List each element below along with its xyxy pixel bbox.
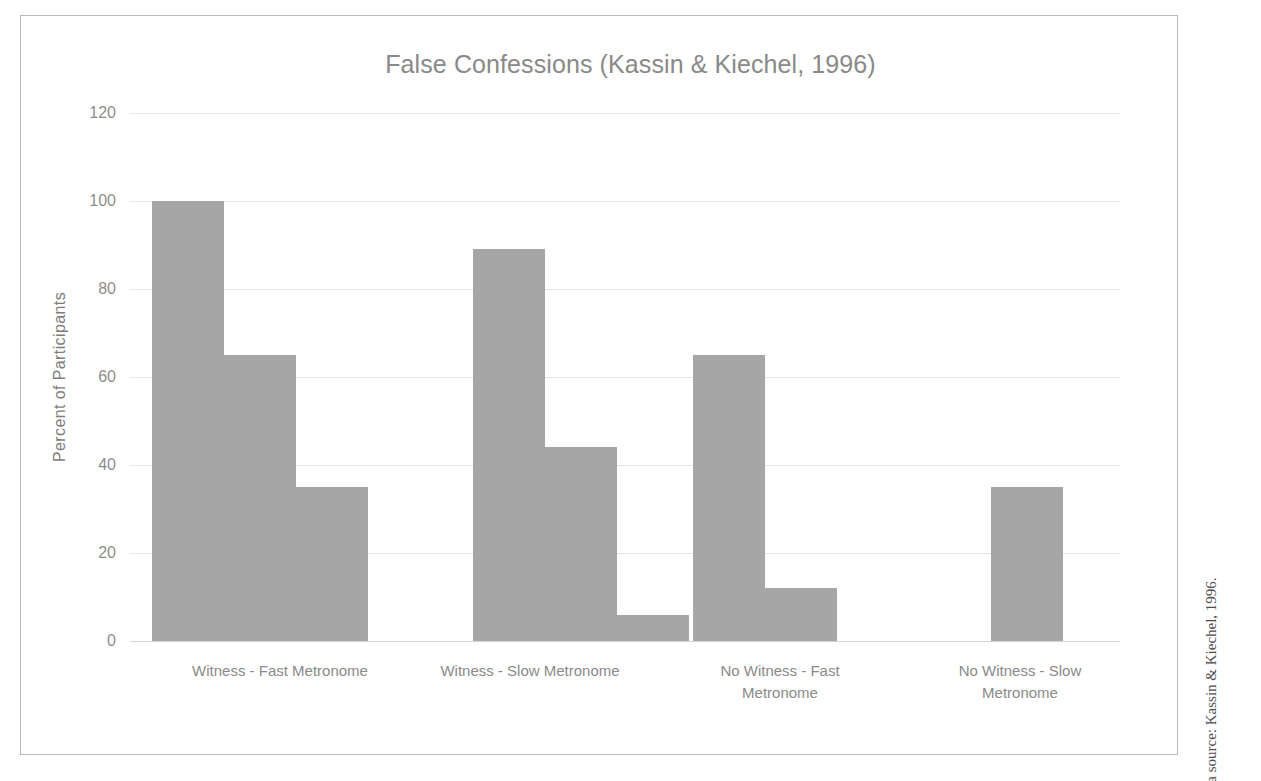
x-axis-categories: Witness - Fast MetronomeWitness - Slow M… xyxy=(130,648,1120,718)
bar xyxy=(617,615,689,641)
x-category-label: No Witness - Fast Metronome xyxy=(685,660,875,704)
x-category-label: Witness - Slow Metronome xyxy=(415,660,645,682)
y-tick-label-100: 100 xyxy=(89,192,116,210)
y-axis-title: Percent of Participants xyxy=(48,113,72,641)
y-tick-label-80: 80 xyxy=(98,280,116,298)
bars xyxy=(130,113,1120,641)
y-tick-label-120: 120 xyxy=(89,104,116,122)
source-caption: Courtesy of the author. Data source: Kas… xyxy=(1196,300,1226,770)
bar xyxy=(545,447,617,641)
chart-title: False Confessions (Kassin & Kiechel, 199… xyxy=(0,50,1261,79)
bar xyxy=(224,355,296,641)
bar xyxy=(473,249,545,641)
gridline-0 xyxy=(130,641,1120,642)
plot-area: 020406080100120 xyxy=(130,113,1120,641)
x-category-label: Witness - Fast Metronome xyxy=(165,660,395,682)
bar xyxy=(765,588,837,641)
y-axis-title-label: Percent of Participants xyxy=(51,292,69,462)
y-tick-label-20: 20 xyxy=(98,544,116,562)
y-tick-label-40: 40 xyxy=(98,456,116,474)
source-caption-text: Courtesy of the author. Data source: Kas… xyxy=(1203,577,1220,781)
y-tick-label-0: 0 xyxy=(107,632,116,650)
y-tick-label-60: 60 xyxy=(98,368,116,386)
bar xyxy=(693,355,765,641)
bar xyxy=(296,487,368,641)
x-category-label: No Witness - Slow Metronome xyxy=(925,660,1115,704)
bar xyxy=(152,201,224,641)
bar xyxy=(991,487,1063,641)
